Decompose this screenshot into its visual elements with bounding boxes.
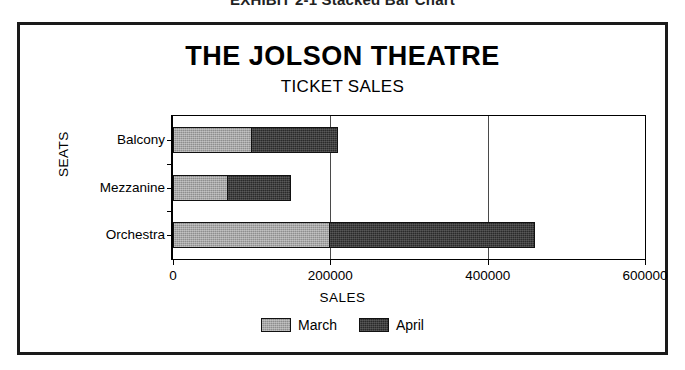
legend-label: April xyxy=(396,317,424,333)
chart-subtitle: TICKET SALES xyxy=(20,77,665,97)
bar-row[interactable] xyxy=(173,127,338,153)
plot-area: BalconyMezzanineOrchestra020000040000060… xyxy=(171,115,646,260)
bar-segment-april[interactable] xyxy=(330,222,535,248)
y-axis-label-mezzanine: Mezzanine xyxy=(41,181,165,195)
x-axis-label: 200000 xyxy=(308,268,353,283)
bar-segment-april[interactable] xyxy=(228,175,291,201)
bar-segment-april[interactable] xyxy=(252,127,339,153)
x-axis-title: SALES xyxy=(20,290,665,305)
chart-title: THE JOLSON THEATRE xyxy=(20,41,665,72)
x-axis-tick xyxy=(330,259,331,265)
legend-item-april[interactable]: April xyxy=(359,317,424,333)
x-axis-label: 600000 xyxy=(622,268,667,283)
y-axis-minor-tick xyxy=(167,211,173,212)
y-axis-tick xyxy=(167,235,173,236)
y-axis-label-balcony: Balcony xyxy=(41,133,165,147)
x-axis-label: 0 xyxy=(169,268,177,283)
chart-frame: THE JOLSON THEATRE TICKET SALES SEATS Ba… xyxy=(17,22,668,355)
legend-label: March xyxy=(298,317,337,333)
chart-legend: MarchApril xyxy=(20,317,665,333)
exhibit-caption: EXHIBIT 2-1 Stacked Bar Chart xyxy=(0,0,685,5)
y-axis-tick xyxy=(167,140,173,141)
y-axis-label-orchestra: Orchestra xyxy=(41,228,165,242)
bar-segment-march[interactable] xyxy=(173,222,330,248)
y-axis-minor-tick xyxy=(167,164,173,165)
x-axis-tick xyxy=(645,259,646,265)
legend-swatch-icon xyxy=(359,318,389,332)
bar-segment-march[interactable] xyxy=(173,127,252,153)
x-axis-tick xyxy=(488,259,489,265)
legend-swatch-icon xyxy=(261,318,291,332)
bar-row[interactable] xyxy=(173,222,535,248)
x-axis-label: 400000 xyxy=(465,268,510,283)
legend-item-march[interactable]: March xyxy=(261,317,337,333)
bar-row[interactable] xyxy=(173,175,291,201)
bar-segment-march[interactable] xyxy=(173,175,228,201)
y-axis-tick xyxy=(167,188,173,189)
x-axis-tick xyxy=(173,259,174,265)
